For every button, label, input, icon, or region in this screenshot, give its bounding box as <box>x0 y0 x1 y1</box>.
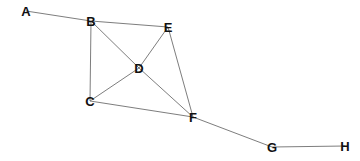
node-h: H <box>340 139 349 154</box>
edge-e-f <box>168 27 193 117</box>
node-group: ABEDCFGH <box>21 4 349 155</box>
edge-b-e <box>91 21 168 27</box>
edge-d-c <box>90 68 139 101</box>
node-g: G <box>267 140 277 155</box>
edge-f-g <box>193 117 272 147</box>
node-f: F <box>189 110 197 125</box>
node-d: D <box>134 61 143 76</box>
edge-b-c <box>90 21 91 101</box>
node-e: E <box>164 20 173 35</box>
edge-group <box>26 11 345 147</box>
node-a: A <box>21 4 31 19</box>
node-b: B <box>86 14 95 29</box>
node-c: C <box>85 94 95 109</box>
edge-g-h <box>272 146 345 147</box>
edge-b-d <box>91 21 139 68</box>
graph-diagram: ABEDCFGH <box>0 0 360 161</box>
edge-a-b <box>26 11 91 21</box>
